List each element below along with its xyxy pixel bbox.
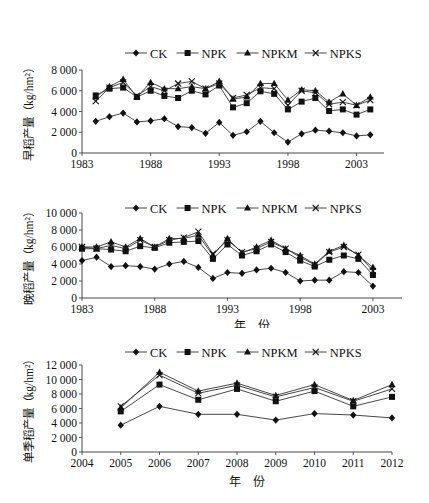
diamond-marker bbox=[133, 204, 139, 211]
diamond-marker bbox=[122, 262, 128, 269]
y-tick-label: 6 000 bbox=[51, 241, 77, 253]
legend-item-npkm: NPKM bbox=[237, 346, 298, 360]
triangle-marker bbox=[271, 80, 278, 86]
svg-text:NPK: NPK bbox=[202, 202, 227, 216]
diamond-marker bbox=[234, 411, 240, 418]
x-tick-label: 1993 bbox=[216, 303, 239, 315]
y-tick-label: 4 000 bbox=[51, 258, 77, 270]
diamond-marker bbox=[79, 257, 85, 264]
diamond-marker bbox=[389, 414, 395, 421]
svg-text:NPKS: NPKS bbox=[330, 346, 362, 360]
x-axis-label: 年 份 bbox=[234, 319, 270, 328]
legend-item-npkm: NPKM bbox=[237, 47, 298, 61]
y-axis-label: 早稻产量（kg/hm²） bbox=[22, 62, 36, 161]
square-marker bbox=[326, 257, 332, 263]
square-marker bbox=[195, 397, 201, 403]
diamond-marker bbox=[181, 258, 187, 265]
legend-item-npk: NPK bbox=[177, 202, 227, 216]
diamond-marker bbox=[285, 139, 291, 146]
chart-1: 02 0004 0006 0008 0001983198819931998200… bbox=[0, 18, 429, 168]
diamond-marker bbox=[367, 131, 373, 138]
square-marker bbox=[195, 238, 201, 244]
square-marker bbox=[340, 106, 346, 112]
y-tick-label: 12 000 bbox=[45, 359, 77, 371]
y-tick-label: 6 000 bbox=[51, 85, 77, 97]
x-tick-label: 1983 bbox=[71, 303, 94, 315]
chart-3: 02 0004 0006 0008 00010 00012 0002004200… bbox=[0, 330, 429, 490]
square-marker bbox=[203, 91, 209, 97]
y-tick-label: 4 000 bbox=[51, 106, 77, 118]
legend-item-npk: NPK bbox=[177, 346, 227, 360]
x-tick-label: 1983 bbox=[71, 158, 94, 168]
x-tick-label: 1998 bbox=[289, 303, 312, 315]
diamond-marker bbox=[175, 123, 181, 130]
diamond-marker bbox=[297, 277, 303, 284]
diamond-marker bbox=[271, 129, 277, 136]
triangle-marker bbox=[367, 93, 374, 99]
diamond-marker bbox=[195, 264, 201, 271]
triangle-marker bbox=[120, 76, 127, 82]
square-marker bbox=[185, 205, 191, 211]
x-axis-label: 年 份 bbox=[229, 475, 265, 489]
square-marker bbox=[185, 349, 191, 355]
svg-text:NPKS: NPKS bbox=[330, 202, 362, 216]
legend-item-ck: CK bbox=[125, 202, 167, 216]
diamond-marker bbox=[353, 132, 359, 139]
diamond-marker bbox=[202, 130, 208, 137]
square-marker bbox=[175, 95, 181, 101]
y-tick-label: 8 000 bbox=[51, 64, 77, 76]
y-tick-label: 8 000 bbox=[51, 224, 77, 236]
x-tick-label: 2003 bbox=[345, 158, 368, 168]
x-tick-label: 2010 bbox=[303, 457, 326, 469]
diamond-marker bbox=[93, 118, 99, 125]
legend-item-npk: NPK bbox=[177, 47, 227, 61]
square-marker bbox=[326, 108, 332, 114]
y-tick-label: 10 000 bbox=[45, 207, 77, 219]
x-tick-label: 2006 bbox=[148, 457, 171, 469]
diamond-marker bbox=[152, 266, 158, 273]
triangle-marker bbox=[156, 368, 163, 374]
svg-text:NPKS: NPKS bbox=[330, 47, 362, 61]
square-marker bbox=[354, 112, 360, 118]
x-tick-label: 1988 bbox=[139, 158, 162, 168]
diamond-marker bbox=[108, 263, 114, 270]
triangle-marker bbox=[311, 381, 318, 387]
x-tick-label: 2004 bbox=[71, 457, 94, 469]
diamond-marker bbox=[156, 403, 162, 410]
diamond-marker bbox=[341, 268, 347, 275]
diamond-marker bbox=[133, 348, 139, 355]
diamond-marker bbox=[311, 410, 317, 417]
diamond-marker bbox=[189, 124, 195, 131]
axes: 02 0004 0006 0008 00010 0001983198819931… bbox=[45, 207, 402, 315]
diamond-marker bbox=[282, 269, 288, 276]
y-tick-label: 2 000 bbox=[51, 126, 77, 138]
x-tick-label: 2009 bbox=[264, 457, 287, 469]
diamond-marker bbox=[268, 265, 274, 272]
diamond-marker bbox=[257, 118, 263, 125]
y-axis-label: 晚稻产量（kg/hm²） bbox=[22, 206, 36, 305]
x-tick-label: 1993 bbox=[208, 158, 231, 168]
diamond-marker bbox=[253, 266, 259, 273]
legend: CKNPKNPKMNPKS bbox=[125, 202, 362, 216]
x-tick-label: 2011 bbox=[342, 457, 365, 469]
square-marker bbox=[161, 93, 167, 99]
square-marker bbox=[299, 99, 305, 105]
diamond-marker bbox=[118, 422, 124, 429]
diamond-marker bbox=[224, 269, 230, 276]
diamond-marker bbox=[210, 275, 216, 282]
svg-text:NPK: NPK bbox=[202, 346, 227, 360]
square-marker bbox=[137, 243, 143, 249]
diamond-marker bbox=[147, 117, 153, 124]
triangle-marker bbox=[244, 49, 251, 55]
svg-text:CK: CK bbox=[150, 346, 167, 360]
diamond-marker bbox=[137, 263, 143, 270]
legend-item-npks: NPKS bbox=[305, 346, 362, 360]
square-marker bbox=[350, 403, 356, 409]
series-npkm bbox=[92, 76, 374, 108]
legend-item-npks: NPKS bbox=[305, 202, 362, 216]
square-marker bbox=[367, 106, 373, 112]
legend-item-ck: CK bbox=[125, 346, 167, 360]
square-marker bbox=[312, 95, 318, 101]
triangle-marker bbox=[339, 90, 346, 96]
x-tick-label: 1988 bbox=[143, 303, 166, 315]
